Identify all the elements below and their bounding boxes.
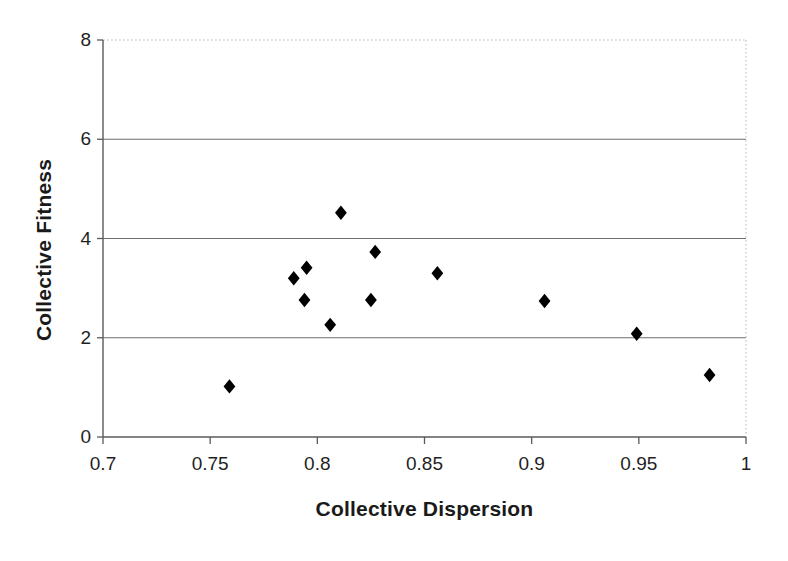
data-point-marker [704,368,716,382]
data-point-marker [631,327,643,341]
axis-ticks-group [97,40,746,444]
data-point-marker [224,379,236,393]
data-point-marker [539,294,551,308]
y-tick-label: 8 [57,30,91,49]
data-point-marker [335,205,347,219]
gridlines-group [103,40,746,437]
data-point-marker [299,293,311,307]
x-tick-label: 0.8 [282,454,352,473]
data-point-marker [369,245,381,259]
x-tick-label: 0.95 [604,454,674,473]
x-tick-label: 0.9 [497,454,567,473]
scatter-chart-figure: Collective Fitness 02468 0.70.750.80.850… [0,0,788,561]
x-tick-label: 0.7 [68,454,138,473]
y-tick-label: 0 [57,427,91,446]
x-tick-label: 0.75 [175,454,245,473]
y-tick-label: 4 [57,229,91,248]
y-tick-label: 2 [57,328,91,347]
data-point-marker [324,318,336,332]
data-markers-group [224,205,716,393]
data-point-marker [288,271,300,285]
data-point-marker [365,293,377,307]
x-tick-label: 1 [711,454,781,473]
data-point-marker [301,261,313,275]
x-tick-label: 0.85 [390,454,460,473]
data-point-marker [431,266,443,280]
plot-area-svg [0,0,788,561]
y-tick-label: 6 [57,129,91,148]
x-axis-title: Collective Dispersion [103,497,746,521]
